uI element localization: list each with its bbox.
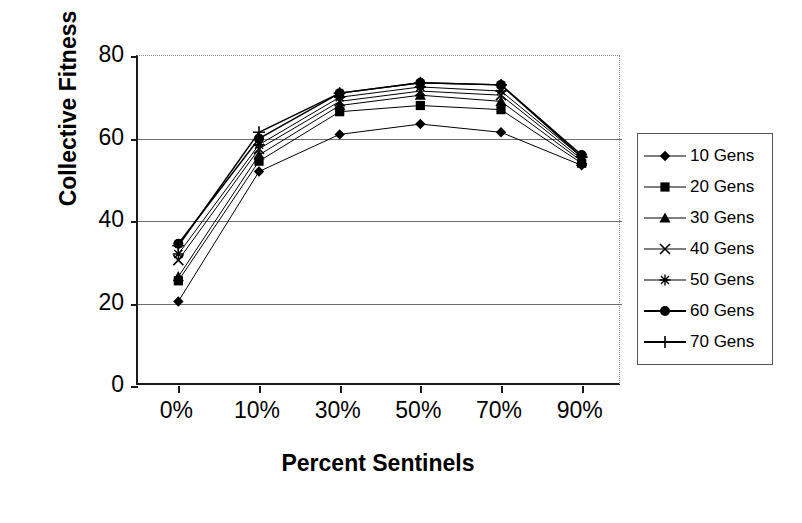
legend-label: 70 Gens: [690, 333, 754, 350]
plot-area: [136, 55, 620, 385]
x-tick-label: 0%: [136, 399, 216, 422]
legend-item-10-gens[interactable]: 10 Gens: [638, 140, 772, 171]
x-tick-label: 30%: [298, 399, 378, 422]
y-tick-label: 40: [78, 208, 124, 231]
x-tick-label: 70%: [459, 399, 539, 422]
data-point-square: [496, 105, 505, 114]
legend-item-70-gens[interactable]: 70 Gens: [638, 326, 772, 357]
data-point-triangle: [173, 271, 184, 281]
legend-marker-asterisk-icon: [642, 270, 688, 290]
legend-label: 10 Gens: [690, 147, 754, 164]
series-20-gens: [174, 101, 587, 286]
data-point-square: [416, 101, 425, 110]
series-40-gens: [173, 86, 586, 265]
y-tick-mark: [131, 56, 138, 58]
x-tick-mark: [582, 386, 584, 393]
series-line: [178, 87, 581, 254]
legend-label: 40 Gens: [690, 240, 754, 257]
x-tick-mark: [178, 386, 180, 393]
y-tick-mark: [131, 139, 138, 141]
legend-marker-triangle-icon: [642, 208, 688, 228]
data-point-diamond: [415, 119, 425, 129]
series-line: [178, 106, 581, 281]
series-10-gens: [173, 119, 587, 307]
x-tick-label: 50%: [378, 399, 458, 422]
chart-figure: Collective Fitness Percent Sentinels 806…: [0, 0, 802, 523]
y-tick-label: 0: [78, 373, 124, 396]
legend-item-30-gens[interactable]: 30 Gens: [638, 202, 772, 233]
chart-legend: 10 Gens20 Gens30 Gens40 Gens50 Gens60 Ge…: [637, 133, 773, 365]
data-point-square: [660, 182, 669, 191]
x-tick-mark: [340, 386, 342, 393]
series-line: [178, 124, 581, 301]
legend-marker-diamond-icon: [642, 146, 688, 166]
legend-item-40-gens[interactable]: 40 Gens: [638, 233, 772, 264]
data-point-asterisk: [659, 274, 670, 285]
legend-item-60-gens[interactable]: 60 Gens: [638, 295, 772, 326]
y-tick-label: 60: [78, 126, 124, 149]
legend-label: 30 Gens: [690, 209, 754, 226]
series-line: [178, 95, 581, 277]
y-tick-mark: [131, 304, 138, 306]
x-tick-label: 90%: [540, 399, 620, 422]
x-tick-label: 10%: [217, 399, 297, 422]
y-tick-label: 20: [78, 291, 124, 314]
legend-item-20-gens[interactable]: 20 Gens: [638, 171, 772, 202]
y-tick-mark: [131, 221, 138, 223]
data-point-diamond: [334, 129, 344, 139]
x-tick-mark: [420, 386, 422, 393]
legend-label: 20 Gens: [690, 178, 754, 195]
data-point-diamond: [496, 127, 506, 137]
data-point-diamond: [660, 150, 670, 160]
legend-marker-circle-icon: [642, 301, 688, 321]
series-60-gens: [173, 78, 586, 249]
series-layer: [138, 56, 622, 386]
legend-marker-plus-icon: [642, 332, 688, 352]
data-point-diamond: [254, 166, 264, 176]
data-point-plus: [659, 336, 671, 348]
x-axis-title: Percent Sentinels: [136, 450, 620, 477]
y-tick-label: 80: [78, 43, 124, 66]
x-tick-mark: [501, 386, 503, 393]
legend-item-50-gens[interactable]: 50 Gens: [638, 264, 772, 295]
x-tick-mark: [259, 386, 261, 393]
legend-label: 50 Gens: [690, 271, 754, 288]
y-tick-mark: [131, 386, 138, 388]
legend-marker-x-icon: [642, 239, 688, 259]
series-70-gens: [172, 77, 587, 252]
data-point-diamond: [173, 296, 183, 306]
data-point-circle: [660, 306, 670, 316]
legend-label: 60 Gens: [690, 302, 754, 319]
legend-marker-square-icon: [642, 177, 688, 197]
series-30-gens: [173, 90, 588, 282]
